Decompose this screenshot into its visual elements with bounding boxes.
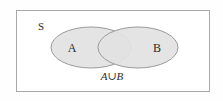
caption-union-operator: ∪ [107,70,116,82]
set-b-ellipse [98,27,178,68]
universe-label: S [38,20,44,32]
venn-diagram-canvas: S A B A∪B [0,0,223,101]
union-caption: A∪B [100,70,124,82]
caption-right-operand: B [117,70,124,82]
venn-diagram-figure: S A B A∪B [0,0,223,101]
set-b-label: B [153,41,161,55]
set-a-label: A [68,41,77,55]
svg-text:A∪B: A∪B [100,70,124,82]
